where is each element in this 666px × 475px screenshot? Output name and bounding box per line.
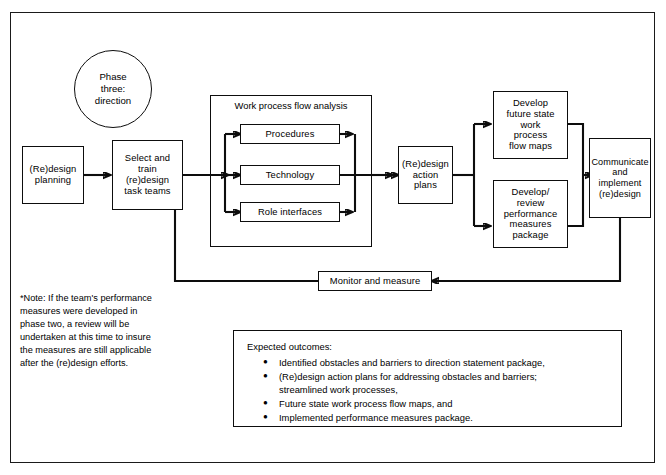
node-performance-measures-label: Develop/ review performance measures pac… bbox=[502, 187, 560, 242]
node-action-plans-label: (Re)design action plans bbox=[400, 159, 451, 192]
node-communicate-implement-label: Communicate and implement (re)design bbox=[589, 157, 650, 199]
node-redesign-planning[interactable]: (Re)design planning bbox=[22, 146, 84, 204]
node-select-train-label: Select and train (re)design task teams bbox=[122, 153, 172, 197]
node-performance-measures[interactable]: Develop/ review performance measures pac… bbox=[493, 180, 568, 248]
node-redesign-planning-label: (Re)design planning bbox=[28, 164, 79, 186]
list-item: Future state work process flow maps, and bbox=[263, 398, 608, 411]
node-monitor-measure-label: Monitor and measure bbox=[328, 276, 423, 287]
list-item: Implemented performance measures package… bbox=[263, 412, 608, 425]
group-title-label: Work process flow analysis bbox=[210, 100, 372, 111]
phase-three-label: Phase three: direction bbox=[95, 71, 131, 107]
node-future-state-maps-label: Develop future state work process flow m… bbox=[504, 98, 556, 153]
expected-outcomes-list: Identified obstacles and barriers to dir… bbox=[263, 357, 608, 426]
footnote-text: *Note: If the team's performance measure… bbox=[20, 292, 220, 370]
node-technology-label: Technology bbox=[264, 170, 316, 181]
node-communicate-implement[interactable]: Communicate and implement (re)design bbox=[589, 138, 651, 218]
flowchart-diagram: Phase three: direction (Re)design planni… bbox=[0, 0, 666, 475]
node-role-interfaces[interactable]: Role interfaces bbox=[240, 202, 340, 222]
list-item: (Re)design action plans for addressing o… bbox=[263, 371, 608, 397]
node-monitor-measure[interactable]: Monitor and measure bbox=[318, 271, 432, 291]
node-role-interfaces-label: Role interfaces bbox=[256, 207, 324, 218]
node-select-train[interactable]: Select and train (re)design task teams bbox=[112, 140, 183, 210]
node-future-state-maps[interactable]: Develop future state work process flow m… bbox=[493, 91, 568, 159]
expected-outcomes-title: Expected outcomes: bbox=[247, 341, 332, 352]
node-technology[interactable]: Technology bbox=[240, 165, 340, 185]
node-procedures-label: Procedures bbox=[264, 129, 317, 140]
node-action-plans[interactable]: (Re)design action plans bbox=[398, 146, 453, 204]
node-procedures[interactable]: Procedures bbox=[240, 124, 340, 144]
phase-three-circle: Phase three: direction bbox=[74, 50, 152, 128]
list-item: Identified obstacles and barriers to dir… bbox=[263, 357, 608, 370]
